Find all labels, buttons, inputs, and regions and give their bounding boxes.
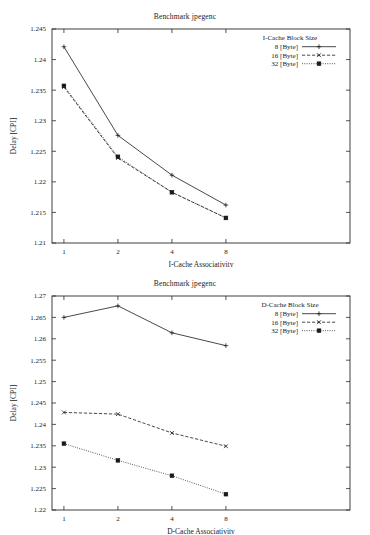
plot-area-dcache: 1.221.2251.231.2351.241.2451.251.2551.26…: [0, 267, 370, 534]
series-line-16Byte: [64, 412, 226, 446]
x-axis-label: I-Cache Associativity: [169, 260, 234, 267]
y-tick-label: 1.215: [30, 209, 46, 217]
y-tick-label: 1.26: [34, 335, 47, 343]
y-tick-label: 1.25: [34, 378, 47, 386]
plot-frame: [52, 296, 350, 510]
x-tick-label: 2: [116, 248, 120, 256]
data-point-8Byte: [170, 331, 175, 336]
y-tick-label: 1.23: [34, 464, 47, 472]
series-markers: [62, 44, 229, 207]
chart-panel-icache: Benchmark jpegenc 1.211.2151.221.2251.23…: [0, 0, 370, 267]
x-tick-label: 8: [224, 248, 228, 256]
y-tick-label: 1.21: [34, 239, 47, 247]
data-point-8Byte: [224, 203, 229, 208]
y-tick-label: 1.24: [34, 421, 47, 429]
legend-sample-marker: [317, 329, 321, 333]
y-tick-label: 1.22: [34, 506, 47, 514]
series-markers: [62, 85, 228, 220]
data-point-legend: [317, 62, 321, 66]
y-tick-label: 1.225: [30, 485, 46, 493]
data-point-32Byte: [170, 474, 174, 478]
y-tick-label: 1.265: [30, 314, 46, 322]
series-line-32Byte: [64, 444, 226, 495]
y-tick-label: 1.22: [34, 178, 47, 186]
data-point-32Byte: [62, 84, 66, 88]
x-tick-label: 4: [170, 515, 174, 523]
data-point-legend: [317, 311, 322, 316]
series-line-8Byte: [64, 47, 226, 205]
data-point-32Byte: [116, 458, 120, 462]
legend-label-32Byte: 32 [Byte]: [271, 327, 298, 335]
legend-label-32Byte: 32 [Byte]: [271, 60, 298, 68]
y-tick-label: 1.235: [30, 87, 46, 95]
legend-title: D-Cache Block Size: [261, 301, 318, 309]
data-point-8Byte: [62, 315, 67, 320]
plot-area-icache: 1.211.2151.221.2251.231.2351.241.2451248…: [0, 0, 370, 267]
y-axis-label: Delay [CPI]: [9, 385, 18, 421]
series-markers: [62, 84, 228, 220]
series-markers: [62, 304, 229, 348]
y-tick-label: 1.24: [34, 56, 47, 64]
y-tick-label: 1.245: [30, 399, 46, 407]
legend-label-8Byte: 8 [Byte]: [275, 310, 298, 318]
data-point-32Byte: [224, 216, 228, 220]
data-point-32Byte: [170, 190, 174, 194]
y-tick-label: 1.255: [30, 357, 46, 365]
data-point-32Byte: [62, 442, 66, 446]
legend-title: I-Cache Block Size: [263, 34, 317, 42]
legend-sample-marker: [317, 44, 322, 49]
data-point-8Byte: [224, 343, 229, 348]
legend-sample-marker: [317, 311, 322, 316]
data-point-32Byte: [116, 155, 120, 159]
series-line-16Byte: [64, 87, 226, 218]
x-tick-label: 1: [62, 248, 66, 256]
x-tick-label: 2: [116, 515, 120, 523]
data-point-legend: [317, 329, 321, 333]
data-point-8Byte: [62, 44, 67, 49]
data-point-8Byte: [116, 304, 121, 309]
x-tick-label: 8: [224, 515, 228, 523]
y-tick-label: 1.225: [30, 148, 46, 156]
plot-frame: [52, 29, 350, 243]
legend-label-8Byte: 8 [Byte]: [275, 43, 298, 51]
y-tick-label: 1.245: [30, 25, 46, 33]
x-tick-label: 4: [170, 248, 174, 256]
figure-page: Benchmark jpegenc 1.211.2151.221.2251.23…: [0, 0, 370, 535]
data-point-legend: [317, 44, 322, 49]
series-markers: [62, 442, 228, 496]
legend-label-16Byte: 16 [Byte]: [271, 319, 298, 327]
series-line-8Byte: [64, 306, 226, 346]
legend-sample-marker: [317, 62, 321, 66]
x-tick-label: 1: [62, 515, 66, 523]
y-tick-label: 1.27: [34, 292, 47, 300]
legend-label-16Byte: 16 [Byte]: [271, 52, 298, 60]
y-tick-label: 1.235: [30, 442, 46, 450]
data-point-32Byte: [224, 492, 228, 496]
chart-panel-dcache: Benchmark jpegenc 1.221.2251.231.2351.24…: [0, 267, 370, 534]
series-markers: [62, 411, 228, 449]
y-tick-label: 1.23: [34, 117, 47, 125]
y-axis-label: Delay [CPI]: [9, 118, 18, 154]
series-line-32Byte: [64, 86, 226, 218]
x-axis-label: D-Cache Associativity: [167, 527, 235, 534]
